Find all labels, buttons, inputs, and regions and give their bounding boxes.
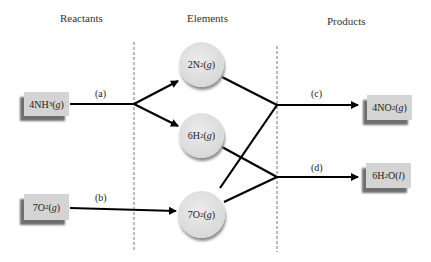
reactant-nh3: 4NH3(g) [24, 92, 69, 116]
path-o2-to-c [220, 105, 277, 188]
product-h2o: 6H2O(l) [366, 163, 411, 188]
product-no2: 4NO2(g) [367, 95, 412, 120]
step-label-d: (d) [311, 162, 323, 173]
step-label-b: (b) [95, 192, 107, 203]
path-o2-to-d [224, 177, 277, 202]
step-label-c: (c) [311, 88, 322, 99]
path-n2-to-c [222, 77, 277, 105]
element-h2: 6H2(g) [179, 113, 224, 158]
element-o2: 7O2(g) [178, 191, 225, 238]
arrow-a-to-h2 [134, 104, 178, 126]
arrow-b [70, 208, 176, 211]
step-label-a: (a) [95, 88, 106, 99]
element-n2: 2N2(g) [179, 42, 224, 87]
reactant-o2: 7O2(g) [24, 194, 69, 220]
arrow-a-to-n2 [134, 81, 178, 104]
